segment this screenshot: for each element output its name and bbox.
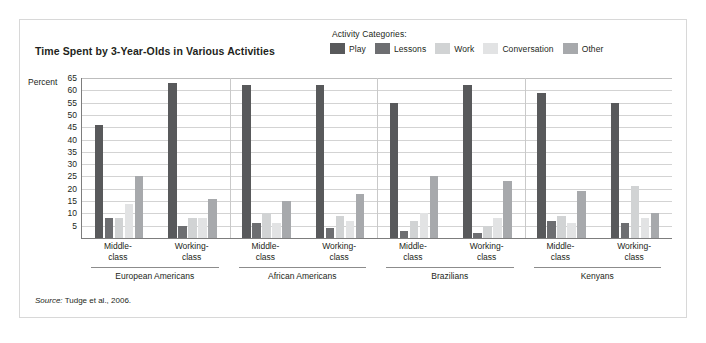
group-separator (377, 78, 378, 238)
legend-item-lessons: Lessons (375, 43, 426, 54)
class-label-line2: class (376, 252, 450, 263)
bar-other (208, 199, 217, 238)
legend-item-conversation: Conversation (483, 43, 553, 54)
class-label-line1: Working- (450, 241, 524, 252)
bar-group (168, 78, 217, 238)
bar-play (168, 83, 177, 238)
bar-other (577, 191, 586, 238)
legend-items: PlayLessonsWorkConversationOther (330, 43, 680, 54)
legend-label-play: Play (349, 44, 366, 54)
class-label-line2: class (155, 252, 229, 263)
culture-name: African Americans (239, 271, 367, 282)
class-label-line2: class (450, 252, 524, 263)
culture-name: Kenyans (534, 271, 662, 282)
culture-rule (91, 267, 219, 268)
bar-other (356, 194, 365, 238)
bar-group (95, 78, 144, 238)
culture-name: European Americans (91, 271, 219, 282)
class-label-line1: Working- (597, 241, 671, 252)
bar-group (537, 78, 586, 238)
bar-lessons (547, 221, 556, 238)
class-label-line2: class (302, 252, 376, 263)
bar-other (282, 201, 291, 238)
class-label: Middle-class (524, 241, 598, 262)
legend-swatch-play (330, 43, 345, 54)
legend-label-other: Other (582, 44, 604, 54)
bar-lessons (105, 218, 114, 238)
y-tick-20: 20 (68, 185, 77, 194)
class-label: Middle-class (81, 241, 155, 262)
y-tick-15: 15 (68, 197, 77, 206)
bar-work (557, 216, 566, 238)
bar-lessons (400, 231, 409, 238)
bar-group (611, 78, 660, 238)
legend-swatch-lessons (375, 43, 390, 54)
source-note: Source: Tudge et al., 2006. (35, 296, 131, 305)
culture-block: Kenyans (534, 267, 662, 282)
legend-title: Activity Categories: (332, 29, 680, 39)
bar-work (262, 213, 271, 238)
class-label-line1: Working- (302, 241, 376, 252)
culture-rule (534, 267, 662, 268)
culture-block: Brazilians (386, 267, 514, 282)
class-label-line1: Middle- (81, 241, 155, 252)
y-tick-5: 5 (72, 221, 77, 230)
class-label: Middle-class (376, 241, 450, 262)
bar-group (316, 78, 365, 238)
legend-swatch-conversation (483, 43, 498, 54)
y-tick-65: 65 (68, 74, 77, 83)
legend-label-work: Work (454, 44, 474, 54)
bar-lessons (326, 228, 335, 238)
bar-work (336, 216, 345, 238)
legend-label-conversation: Conversation (502, 44, 553, 54)
bar-other (651, 213, 660, 238)
bar-play (390, 103, 399, 238)
class-label: Working-class (155, 241, 229, 262)
class-label-line2: class (229, 252, 303, 263)
y-tick-30: 30 (68, 160, 77, 169)
bar-lessons (473, 233, 482, 238)
bar-conversation (272, 223, 281, 238)
bar-other (503, 181, 512, 238)
bar-work (410, 221, 419, 238)
bar-play (95, 125, 104, 238)
class-label: Working-class (597, 241, 671, 262)
bar-conversation (125, 204, 134, 238)
source-prefix: Source: (35, 296, 63, 305)
class-label-line2: class (597, 252, 671, 263)
legend-label-lessons: Lessons (394, 44, 426, 54)
y-axis-ticks: 5101520253035404550556065 (55, 78, 77, 238)
y-tick-35: 35 (68, 148, 77, 157)
bar-lessons (621, 223, 630, 238)
bar-work (483, 226, 492, 238)
class-label: Working-class (302, 241, 376, 262)
culture-block: African Americans (239, 267, 367, 282)
bar-group (242, 78, 291, 238)
y-tick-45: 45 (68, 123, 77, 132)
legend-swatch-other (563, 43, 578, 54)
class-label-line1: Middle- (229, 241, 303, 252)
bar-work (631, 186, 640, 238)
bar-other (430, 176, 439, 238)
bar-group (390, 78, 439, 238)
chart-title: Time Spent by 3-Year-Olds in Various Act… (35, 45, 275, 57)
bar-lessons (252, 223, 261, 238)
legend-swatch-work (435, 43, 450, 54)
y-tick-50: 50 (68, 111, 77, 120)
culture-block: European Americans (91, 267, 219, 282)
legend-item-play: Play (330, 43, 366, 54)
plot-area (81, 78, 672, 239)
y-tick-10: 10 (68, 209, 77, 218)
bar-conversation (198, 218, 207, 238)
bar-play (242, 85, 251, 238)
bar-conversation (567, 223, 576, 238)
bar-work (115, 218, 124, 238)
bar-play (537, 93, 546, 238)
y-tick-40: 40 (68, 135, 77, 144)
bar-conversation (641, 218, 650, 238)
class-label: Middle-class (229, 241, 303, 262)
culture-rule (386, 267, 514, 268)
source-text: Tudge et al., 2006. (65, 296, 131, 305)
bar-conversation (420, 213, 429, 238)
class-label: Working-class (450, 241, 524, 262)
